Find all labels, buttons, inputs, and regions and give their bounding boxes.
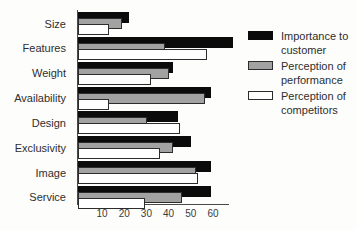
x-tick-label: 30	[141, 208, 152, 219]
bar-availability-series2	[78, 99, 109, 110]
legend-label: Perception of performance	[281, 59, 354, 87]
category-label: Weight	[0, 66, 66, 80]
legend-label: Perception of competitors	[281, 89, 354, 117]
legend-item: Perception of performance	[248, 59, 354, 87]
category-label: Image	[0, 166, 66, 180]
legend-label: Importance to customer	[281, 29, 354, 57]
category-label: Design	[0, 116, 66, 130]
importance-performance-bar-chart: SizeFeaturesWeightAvailabilityDesignExcl…	[0, 0, 357, 230]
legend-swatch-icon	[248, 61, 273, 70]
x-tick-label: 10	[96, 208, 107, 219]
bar-image-series2	[78, 173, 198, 184]
bar-size-series2	[78, 24, 109, 35]
category-label: Service	[0, 190, 66, 204]
category-label: Exclusivity	[0, 141, 66, 155]
legend-item: Perception of competitors	[248, 89, 354, 117]
bar-weight-series2	[78, 74, 151, 85]
bar-exclusivity-series2	[78, 148, 160, 159]
bar-service-series2	[78, 198, 145, 209]
legend-swatch-icon	[248, 91, 273, 100]
category-label: Features	[0, 41, 66, 55]
x-tick-label: 40	[163, 208, 174, 219]
x-tick-label: 50	[185, 208, 196, 219]
chart-legend: Importance to customerPerception of perf…	[248, 29, 354, 119]
bar-features-series2	[78, 49, 207, 60]
bar-design-series2	[78, 123, 180, 134]
x-tick-label: 60	[207, 208, 218, 219]
category-label: Size	[0, 17, 66, 31]
legend-swatch-icon	[248, 31, 273, 40]
category-label: Availability	[0, 91, 66, 105]
legend-item: Importance to customer	[248, 29, 354, 57]
x-tick-label: 20	[119, 208, 130, 219]
